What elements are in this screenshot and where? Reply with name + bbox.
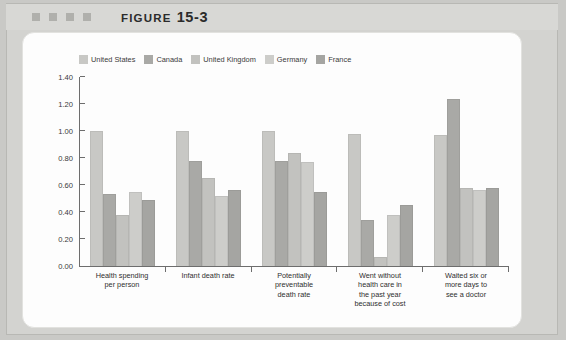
bar[interactable] [447, 99, 460, 266]
y-axis-tick-label: 1.00 [58, 127, 80, 136]
bar[interactable] [176, 131, 189, 266]
figure-card: United StatesCanadaUnited KingdomGermany… [22, 32, 522, 328]
legend-label: Canada [156, 55, 182, 64]
y-axis-tick-mark [80, 211, 85, 212]
legend-swatch-icon [191, 55, 200, 64]
y-axis-tick-label: 0.00 [58, 262, 80, 271]
bar[interactable] [473, 190, 486, 266]
x-axis-label: Infant death rate [165, 271, 251, 309]
x-axis-label: Waited six ormore days tosee a doctor [423, 271, 509, 309]
bar-group [80, 77, 166, 266]
legend-label: United States [91, 55, 135, 64]
legend-item[interactable]: United Kingdom [191, 55, 256, 64]
bar[interactable] [460, 188, 473, 266]
bar[interactable] [90, 131, 103, 266]
bar[interactable] [228, 190, 241, 266]
y-axis-tick-mark [80, 184, 85, 185]
x-axis-label-line: see a doctor [425, 290, 507, 299]
figure-label: FIGURE [121, 12, 172, 24]
bar[interactable] [486, 188, 499, 266]
legend-swatch-icon [144, 55, 153, 64]
x-axis-label-line: per person [81, 280, 163, 289]
header-decor-dot [66, 13, 74, 21]
legend-label: Germany [277, 55, 307, 64]
legend-swatch-icon [79, 55, 88, 64]
bar[interactable] [103, 194, 116, 266]
legend-item[interactable]: Canada [144, 55, 182, 64]
bar[interactable] [361, 220, 374, 266]
x-axis-label-line: Waited six or [425, 271, 507, 280]
x-axis-label-line: Infant death rate [167, 271, 249, 280]
bar[interactable] [129, 192, 142, 266]
figure-title: FIGURE 15-3 [121, 8, 208, 26]
x-axis-label-line: health care in [339, 280, 421, 289]
figure-number: 15-3 [177, 9, 208, 25]
bar-group [423, 77, 509, 266]
header-decor-dot [49, 13, 57, 21]
legend-swatch-icon [265, 55, 274, 64]
bar[interactable] [262, 131, 275, 266]
figure-header: FIGURE 15-3 [6, 4, 558, 30]
legend-label: United Kingdom [203, 55, 256, 64]
legend-item[interactable]: Germany [265, 55, 307, 64]
bar[interactable] [288, 153, 301, 266]
bar-group [337, 77, 423, 266]
bar[interactable] [275, 161, 288, 266]
x-axis-label-line: the past year [339, 290, 421, 299]
chart-legend: United StatesCanadaUnited KingdomGermany… [79, 55, 351, 64]
bar[interactable] [301, 162, 314, 266]
bar-group [166, 77, 252, 266]
x-axis-label-line: more days to [425, 280, 507, 289]
legend-item[interactable]: France [316, 55, 351, 64]
header-decor-dot [32, 13, 40, 21]
screenshot-root: FIGURE 15-3 United StatesCanadaUnited Ki… [0, 0, 566, 340]
bar[interactable] [314, 192, 327, 266]
y-axis-tick-label: 0.40 [58, 208, 80, 217]
header-decor-dot [83, 13, 91, 21]
x-axis-label-line: Potentially [253, 271, 335, 280]
x-axis-label: Went withouthealth care inthe past yearb… [337, 271, 423, 309]
legend-swatch-icon [316, 55, 325, 64]
bar[interactable] [387, 215, 400, 266]
bar-group [252, 77, 338, 266]
y-axis-tick-label: 1.40 [58, 73, 80, 82]
x-axis-labels: Health spendingper personInfant death ra… [79, 271, 509, 309]
bar[interactable] [348, 134, 361, 266]
y-axis-tick-mark [80, 76, 85, 77]
y-axis-tick-mark [80, 157, 85, 158]
bar[interactable] [400, 205, 413, 266]
y-axis-tick-mark [80, 130, 85, 131]
y-axis-tick-label: 0.80 [58, 154, 80, 163]
bar[interactable] [434, 135, 447, 266]
bar[interactable] [142, 200, 155, 266]
bar-chart: United StatesCanadaUnited KingdomGermany… [23, 33, 523, 329]
y-axis-tick-label: 0.20 [58, 235, 80, 244]
x-axis-label-line: because of cost [339, 299, 421, 308]
x-axis-label-line: death rate [253, 290, 335, 299]
x-axis-label-line: Went without [339, 271, 421, 280]
plot-area: 0.000.200.400.600.801.001.201.40 [79, 77, 509, 267]
bar-groups [80, 77, 509, 266]
bar[interactable] [215, 196, 228, 266]
x-axis-label: Health spendingper person [79, 271, 165, 309]
legend-label: France [328, 55, 351, 64]
bar[interactable] [189, 161, 202, 266]
bar[interactable] [202, 178, 215, 266]
x-axis-label: Potentiallypreventabledeath rate [251, 271, 337, 309]
x-axis-label-line: preventable [253, 280, 335, 289]
y-axis-tick-mark [80, 103, 85, 104]
bar[interactable] [116, 215, 129, 266]
legend-item[interactable]: United States [79, 55, 135, 64]
y-axis-tick-label: 1.20 [58, 100, 80, 109]
y-axis-tick-mark [80, 238, 85, 239]
header-decor-dots [32, 13, 91, 21]
x-axis-label-line: Health spending [81, 271, 163, 280]
y-axis-tick-label: 0.60 [58, 181, 80, 190]
bar[interactable] [374, 257, 387, 266]
